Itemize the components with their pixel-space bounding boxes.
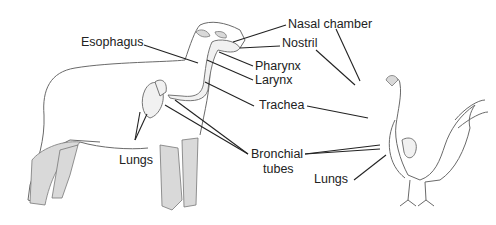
label-trachea: Trachea bbox=[259, 98, 304, 112]
label-nasal-chamber: Nasal chamber bbox=[288, 17, 372, 31]
sheep-illustration bbox=[28, 22, 245, 210]
label-nostril: Nostril bbox=[282, 36, 317, 50]
label-tubes: tubes bbox=[263, 162, 294, 176]
label-bronchial: Bronchial bbox=[251, 147, 303, 161]
label-lungs-chicken: Lungs bbox=[314, 172, 348, 186]
label-lungs-sheep: Lungs bbox=[119, 153, 153, 167]
chicken-illustration bbox=[386, 76, 488, 207]
label-esophagus: Esophagus bbox=[81, 35, 144, 49]
label-larynx: Larynx bbox=[255, 73, 293, 87]
label-pharynx: Pharynx bbox=[255, 59, 302, 73]
respiratory-system-diagram: Esophagus Nasal chamber Nostril Pharynx … bbox=[0, 0, 496, 225]
